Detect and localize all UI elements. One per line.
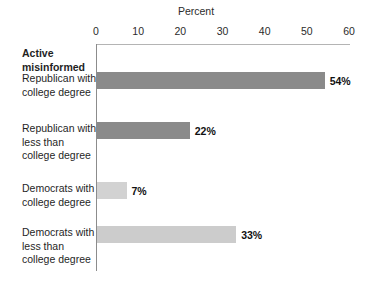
bar-value-republican-college: 54%: [330, 72, 351, 89]
x-axis-tick-labels: 0 10 20 30 40 50 60: [0, 25, 372, 41]
bar-democrats-less-than-college: [97, 226, 236, 243]
x-tick-40: 40: [259, 25, 271, 37]
x-axis-title: Percent: [178, 5, 214, 17]
bar-value-republican-less-than-college: 22%: [195, 122, 216, 139]
category-line: college degree: [22, 253, 94, 267]
category-line: less than: [22, 240, 94, 254]
category-line: Democrats with: [22, 226, 94, 240]
bar-value-democrats-college: 7%: [132, 182, 147, 199]
bar-value-democrats-less-than-college: 33%: [241, 226, 262, 243]
x-tick-10: 10: [132, 25, 144, 37]
x-tick-0: 0: [93, 25, 99, 37]
x-tick-20: 20: [174, 25, 186, 37]
category-line: Republican with: [22, 122, 94, 136]
category-line: college degree: [22, 149, 94, 163]
group-header-line-1: Active: [22, 47, 94, 61]
category-line: less than: [22, 136, 94, 150]
bar-republican-college: [97, 72, 325, 89]
category-label-republican-college: Republican withcollege degree: [22, 72, 94, 99]
category-line: Democrats with: [22, 182, 94, 196]
category-line: college degree: [22, 196, 94, 210]
plot-top-border: [96, 44, 350, 45]
group-header-active-misinformed: Active misinformed: [22, 47, 94, 74]
x-tick-30: 30: [217, 25, 229, 37]
category-label-republican-less-than-college: Republican withless thancollege degree: [22, 122, 94, 163]
category-label-democrats-less-than-college: Democrats withless thancollege degree: [22, 226, 94, 267]
category-line: Republican with: [22, 72, 94, 86]
x-tick-50: 50: [301, 25, 313, 37]
bar-democrats-college: [97, 182, 127, 199]
bar-chart: Percent 0 10 20 30 40 50 60 Active misin…: [0, 0, 372, 288]
x-tick-60: 60: [343, 25, 355, 37]
bar-republican-less-than-college: [97, 122, 190, 139]
category-line: college degree: [22, 86, 94, 100]
category-label-democrats-college: Democrats withcollege degree: [22, 182, 94, 209]
